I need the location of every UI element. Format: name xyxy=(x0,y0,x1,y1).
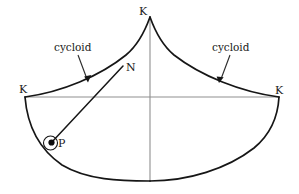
leader-line-cycloid-left xyxy=(78,55,87,79)
label-k-left: K xyxy=(19,84,27,95)
cycloid-curve-left xyxy=(25,17,150,97)
label-cycloid-right: cycloid xyxy=(212,42,249,53)
bottom-arc-left xyxy=(25,97,150,181)
label-cycloid-left: cycloid xyxy=(54,42,91,53)
label-point-p: P xyxy=(58,138,65,149)
diagram-svg xyxy=(0,0,299,194)
label-point-n: N xyxy=(126,62,136,73)
leader-line-cycloid-right xyxy=(221,55,230,79)
figure-canvas: K K K N P cycloid cycloid xyxy=(0,0,299,194)
label-k-top: K xyxy=(139,6,147,17)
label-k-right: K xyxy=(275,85,283,96)
point-marker-p xyxy=(48,139,54,145)
bottom-arc-right xyxy=(150,97,279,181)
cycloid-curve-right xyxy=(150,17,279,97)
